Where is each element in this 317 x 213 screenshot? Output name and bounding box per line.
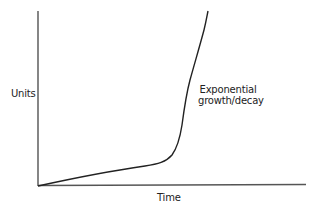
annotation-line-2: growth/decay bbox=[198, 95, 258, 106]
curve-annotation: Exponential growth/decay bbox=[198, 84, 258, 106]
y-axis-label: Units bbox=[11, 88, 36, 99]
x-axis bbox=[38, 185, 306, 186]
x-axis-label: Time bbox=[157, 192, 181, 203]
chart-canvas bbox=[0, 0, 317, 213]
exponential-curve bbox=[38, 11, 208, 186]
annotation-line-1: Exponential bbox=[198, 84, 258, 95]
